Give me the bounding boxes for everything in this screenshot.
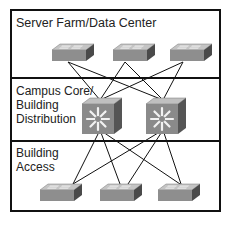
switch-icon: [170, 44, 212, 61]
uplinks: [68, 62, 183, 100]
switch-icon: [158, 184, 200, 201]
switch-icon: [40, 184, 82, 201]
switch-icon: [100, 184, 142, 201]
multilayer-switch-icon: [82, 98, 122, 134]
network-diagram: [0, 0, 231, 225]
multilayer-switch-icon: [146, 98, 186, 134]
switch-icon: [113, 44, 155, 61]
downlinks: [73, 130, 181, 184]
switch-icon: [52, 44, 94, 61]
